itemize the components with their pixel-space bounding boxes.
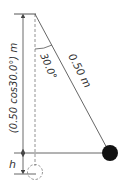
vertical-length-label: (0.50 cos30.0°) m	[8, 43, 19, 134]
height-label: h	[9, 158, 16, 171]
angle-label: 30.0°	[38, 51, 59, 80]
lowest-position-circle	[28, 165, 43, 180]
string-length-label: 0.50 m	[66, 51, 94, 89]
pendulum-diagram: (0.50 cos30.0°) m 30.0° 0.50 m h	[0, 0, 125, 193]
pendulum-bob	[102, 145, 118, 161]
pendulum-string	[35, 14, 108, 150]
angle-arc	[35, 45, 52, 49]
